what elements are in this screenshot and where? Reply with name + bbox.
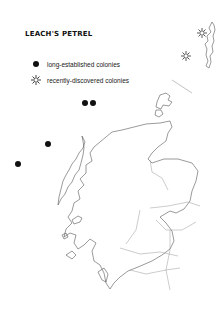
colony-markers-recently-discovered xyxy=(181,28,207,61)
colony-markers-long-established xyxy=(15,100,96,167)
coastline xyxy=(58,22,215,289)
scotland-map xyxy=(0,0,224,335)
region-boundaries xyxy=(120,160,200,290)
